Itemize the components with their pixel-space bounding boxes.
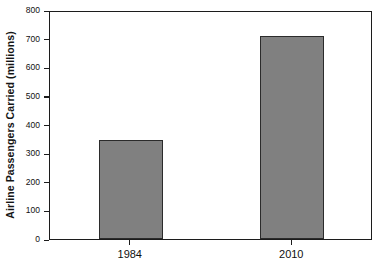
y-axis-tick-mark [44, 182, 49, 183]
y-axis-title-label: Airline Passengers Carried (millions) [4, 31, 16, 219]
x-axis-tick-label: 2010 [279, 248, 303, 260]
x-axis-tick-mark [129, 240, 130, 245]
y-axis-tick-label: 400 [26, 120, 40, 130]
y-axis-title: Airline Passengers Carried (millions) [0, 0, 20, 250]
y-axis-tick-label: 700 [26, 34, 40, 44]
y-axis-tick-mark [44, 68, 49, 69]
x-axis-tick-mark [291, 240, 292, 245]
plot-frame [49, 11, 372, 240]
y-axis-tick-label: 800 [26, 5, 40, 15]
bar-2010 [260, 36, 324, 239]
bar-chart: Airline Passengers Carried (millions) 01… [0, 0, 387, 268]
y-axis-tick-mark [44, 211, 49, 212]
plot-area [50, 12, 371, 239]
y-axis-tick-label: 100 [26, 205, 40, 215]
y-axis-tick-label: 600 [26, 62, 40, 72]
y-axis-tick-label: 300 [26, 148, 40, 158]
y-axis-tick-label: 200 [26, 177, 40, 187]
x-axis-tick-label: 1984 [118, 248, 142, 260]
y-axis-tick-label: 0 [35, 234, 40, 244]
y-axis-tick-mark [44, 125, 49, 126]
bar-1984 [99, 140, 163, 239]
y-axis-tick-mark [44, 240, 49, 241]
y-axis-tick-mark [44, 11, 49, 12]
y-axis-tick-mark [44, 154, 49, 155]
y-axis-tick-label: 500 [26, 91, 40, 101]
y-axis-tick-mark [44, 39, 49, 40]
y-axis-tick-mark [44, 96, 49, 97]
